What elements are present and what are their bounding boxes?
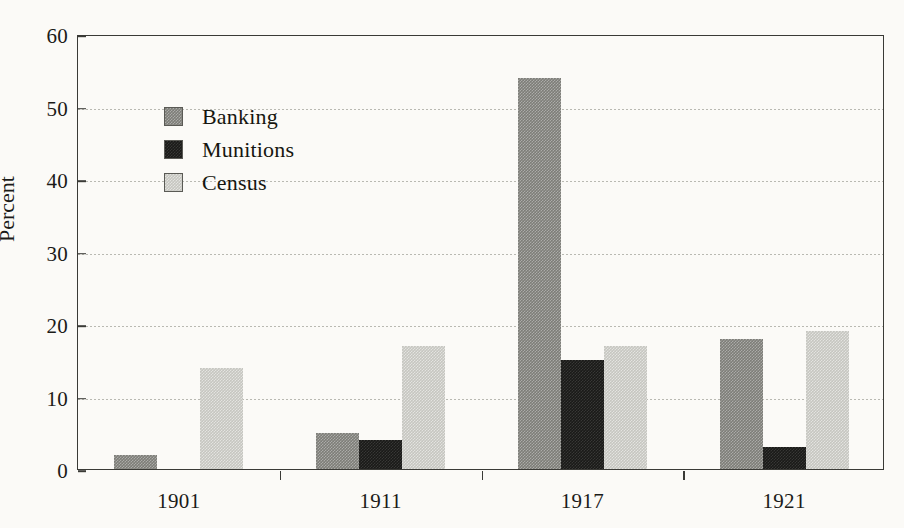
bar-banking-1921 [720,339,763,470]
bar-banking-1901 [114,455,157,470]
x-tick-label: 1917 [522,489,642,514]
plot-area: 0102030405060 1901191119171921 Banking M… [77,35,884,470]
x-tick-label: 1911 [321,489,441,514]
y-tick-label: 40 [22,169,68,194]
x-tick-mark [280,471,282,480]
y-tick-mark [78,108,86,110]
chart-figure: 0102030405060 1901191119171921 Banking M… [0,0,904,528]
x-tick-mark [482,471,484,480]
bar-census-1901 [200,368,243,470]
gridline [78,326,883,327]
y-tick-mark [78,253,86,255]
gridline [78,254,883,255]
bar-munitions-1917 [561,360,604,469]
legend-swatch-banking [164,107,183,126]
y-tick-label: 30 [22,241,68,266]
x-tick-label: 1901 [119,489,239,514]
legend-item: Banking [164,100,294,133]
y-tick-label: 10 [22,386,68,411]
bar-munitions-1911 [359,440,402,469]
bar-census-1917 [604,346,647,469]
legend-label-munitions: Munitions [202,137,294,163]
legend-label-census: Census [202,170,267,196]
y-tick-label: 0 [22,459,68,484]
bar-census-1911 [402,346,445,469]
legend-swatch-census [164,173,183,192]
legend-swatch-munitions [164,140,183,159]
y-axis-label: Percent [0,176,20,242]
bar-munitions-1921 [763,447,806,469]
legend-item: Census [164,166,294,199]
legend-item: Munitions [164,133,294,166]
y-tick-mark [78,325,86,327]
y-tick-label: 60 [22,24,68,49]
x-tick-mark [683,471,685,480]
y-tick-mark [78,180,86,182]
x-tick-label: 1921 [724,489,844,514]
bar-census-1921 [806,331,849,469]
y-tick-mark [78,470,86,472]
bar-banking-1911 [316,433,359,469]
chart-legend: Banking Munitions Census [164,100,294,199]
bar-banking-1917 [518,78,561,470]
y-tick-mark [78,398,86,400]
y-tick-label: 20 [22,314,68,339]
y-tick-label: 50 [22,96,68,121]
y-tick-mark [78,35,86,37]
legend-label-banking: Banking [202,104,278,130]
